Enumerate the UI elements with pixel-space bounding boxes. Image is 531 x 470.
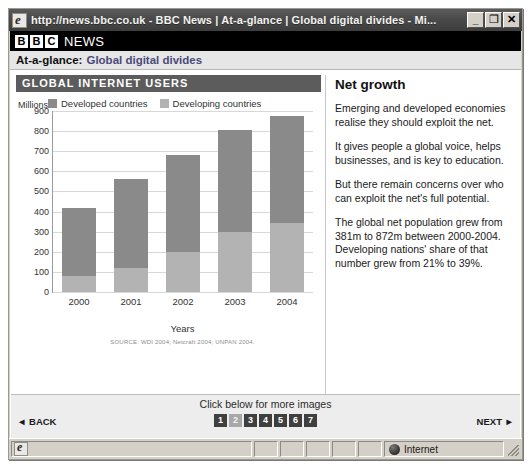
y-axis-tick: 500 bbox=[34, 186, 49, 196]
chart-column: GLOBAL INTERNET USERS Developed countrie… bbox=[16, 75, 321, 394]
y-axis-tick: 0 bbox=[44, 287, 49, 297]
legend-entry-developed: Developed countries bbox=[48, 98, 148, 109]
bbc-letter-2: B bbox=[30, 35, 43, 48]
security-zone-panel[interactable]: Internet bbox=[384, 441, 504, 457]
status-message-panel bbox=[11, 441, 252, 457]
window-title-text: http://news.bbc.co.uk - BBC News | At-a-… bbox=[31, 14, 466, 26]
page-button-2[interactable]: 2 bbox=[229, 414, 242, 427]
bar-segment-developing bbox=[166, 252, 200, 292]
page-button-5[interactable]: 5 bbox=[274, 414, 287, 427]
minimize-button[interactable]: _ bbox=[467, 12, 484, 28]
bar-segment-developing bbox=[270, 223, 304, 292]
more-images-label: Click below for more images bbox=[11, 398, 520, 410]
legend-label-developing: Developing countries bbox=[173, 98, 262, 109]
chart-heading-bar: GLOBAL INTERNET USERS bbox=[16, 75, 321, 92]
y-axis-tick: 800 bbox=[34, 126, 49, 136]
content-region: GLOBAL INTERNET USERS Developed countrie… bbox=[10, 70, 521, 394]
x-axis-title: Years bbox=[44, 323, 321, 334]
page-button-4[interactable]: 4 bbox=[259, 414, 272, 427]
bbc-letter-1: B bbox=[15, 35, 28, 48]
page-button-3[interactable]: 3 bbox=[244, 414, 257, 427]
at-a-glance-header: At-a-glance: Global digital divides bbox=[10, 51, 521, 70]
bar-segment-developing bbox=[62, 276, 96, 292]
status-slot-1 bbox=[254, 441, 278, 457]
status-bar: Internet bbox=[9, 438, 522, 459]
page-button-7[interactable]: 7 bbox=[304, 414, 317, 427]
bar-column: 2003 bbox=[218, 111, 252, 292]
legend-swatch-developing bbox=[160, 99, 169, 108]
bbc-letter-3: C bbox=[45, 35, 58, 48]
x-axis-tick: 2000 bbox=[68, 296, 89, 307]
net-growth-title: Net growth bbox=[335, 77, 515, 92]
legend-entry-developing: Developing countries bbox=[160, 98, 262, 109]
bar-segment-developed bbox=[270, 116, 304, 223]
y-axis-tick: 200 bbox=[34, 247, 49, 257]
body-paragraph-4: The global net population grew from 381m… bbox=[335, 216, 515, 270]
bar-column: 2000 bbox=[62, 111, 96, 292]
bar-segment-developed bbox=[218, 130, 252, 232]
body-paragraph-3: But there remain concerns over who can e… bbox=[335, 178, 515, 205]
next-link[interactable]: NEXT ► bbox=[477, 416, 514, 427]
window-title-bar[interactable]: http://news.bbc.co.uk - BBC News | At-a-… bbox=[9, 9, 522, 31]
minimize-glyph: _ bbox=[468, 15, 483, 25]
bar-column: 2002 bbox=[166, 111, 200, 292]
y-axis-tick: 700 bbox=[34, 146, 49, 156]
security-zone-label: Internet bbox=[404, 444, 438, 455]
bar-column: 2004 bbox=[270, 111, 304, 292]
maximize-button[interactable]: ❐ bbox=[485, 12, 502, 28]
resize-grip-icon[interactable] bbox=[506, 441, 520, 457]
browser-window: http://news.bbc.co.uk - BBC News | At-a-… bbox=[8, 8, 523, 460]
globe-icon bbox=[389, 444, 400, 455]
page-number-list: 1234567 bbox=[11, 414, 520, 427]
close-button[interactable]: ✕ bbox=[503, 12, 520, 28]
chart-plot-area: Millions 9008007006005004003002001000 20… bbox=[16, 111, 321, 311]
y-axis-tick: 400 bbox=[34, 207, 49, 217]
bar-segment-developing bbox=[218, 232, 252, 292]
chart-bars: 20002001200220032004 bbox=[53, 111, 313, 292]
x-axis-tick: 2004 bbox=[276, 296, 297, 307]
ie-logo-icon bbox=[12, 13, 27, 28]
body-paragraph-1: Emerging and developed economies realise… bbox=[335, 102, 515, 129]
bar-segment-developed bbox=[114, 179, 148, 267]
y-axis-tick: 100 bbox=[34, 267, 49, 277]
page-button-6[interactable]: 6 bbox=[289, 414, 302, 427]
y-axis-tick: 900 bbox=[34, 106, 49, 116]
at-a-glance-prefix: At-a-glance: bbox=[16, 54, 82, 66]
status-slot-4 bbox=[332, 441, 356, 457]
back-link[interactable]: ◄ BACK bbox=[17, 416, 56, 427]
status-slot-5 bbox=[358, 441, 382, 457]
chart-source-note: SOURCE: WDI 2004; Netcraft 2004; UNPAN 2… bbox=[44, 339, 321, 345]
status-slot-3 bbox=[306, 441, 330, 457]
bar-segment-developed bbox=[62, 208, 96, 276]
bar-column: 2001 bbox=[114, 111, 148, 292]
x-axis-tick: 2001 bbox=[120, 296, 141, 307]
maximize-glyph: ❐ bbox=[486, 14, 501, 24]
chart-canvas: 9008007006005004003002001000 20002001200… bbox=[52, 111, 313, 293]
legend-label-developed: Developed countries bbox=[61, 98, 148, 109]
body-paragraph-2: It gives people a global voice, helps bu… bbox=[335, 140, 515, 167]
x-axis-tick: 2002 bbox=[172, 296, 193, 307]
bar-segment-developing bbox=[114, 268, 148, 292]
gridline: 0 bbox=[53, 292, 313, 293]
image-pager-nav: Click below for more images 1234567 ◄ BA… bbox=[11, 394, 520, 438]
text-column: Net growth Emerging and developed econom… bbox=[325, 75, 515, 394]
y-axis-tick: 600 bbox=[34, 166, 49, 176]
status-slot-2 bbox=[280, 441, 304, 457]
page-button-1[interactable]: 1 bbox=[214, 414, 227, 427]
x-axis-tick: 2003 bbox=[224, 296, 245, 307]
ie-logo-icon bbox=[14, 442, 28, 456]
legend-swatch-developed bbox=[48, 99, 57, 108]
desktop-backdrop: http://news.bbc.co.uk - BBC News | At-a-… bbox=[0, 0, 531, 470]
page-client-area: B B C NEWS At-a-glance: Global digital d… bbox=[10, 31, 521, 438]
bbc-news-wordmark: NEWS bbox=[64, 34, 104, 49]
y-axis-tick: 300 bbox=[34, 227, 49, 237]
bbc-masthead: B B C NEWS bbox=[10, 31, 521, 51]
at-a-glance-title: Global digital divides bbox=[86, 54, 202, 66]
chart-legend: Developed countries Developing countries bbox=[48, 98, 321, 109]
bar-segment-developed bbox=[166, 155, 200, 252]
close-glyph: ✕ bbox=[504, 14, 519, 24]
